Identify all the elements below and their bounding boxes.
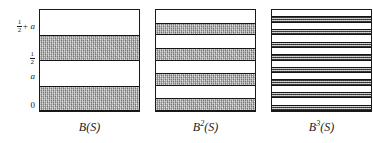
panel-b1-caption: B(S) [39, 118, 140, 138]
y-axis-labels: 1 2 + a 1 2 a 0 [0, 0, 38, 112]
band [156, 98, 255, 111]
panel-b2 [155, 9, 256, 112]
panel-b1-plot [40, 10, 139, 111]
panel-b3 [271, 9, 372, 112]
y-axis-tick-half-plus-a: 1 2 + a [17, 19, 35, 35]
band [272, 16, 371, 22]
band [272, 105, 371, 111]
caption-argument: (S) [86, 120, 100, 134]
band [272, 29, 371, 35]
band-fill [272, 55, 371, 59]
band-fill [272, 80, 371, 84]
band-fill [40, 36, 139, 59]
band-fill [156, 99, 255, 110]
caption-argument: (S) [204, 120, 218, 134]
band-fill [156, 24, 255, 35]
band-fill [156, 49, 255, 60]
fraction-denominator: 2 [17, 27, 23, 34]
band-fill [272, 106, 371, 110]
y-axis-tick-text: a [31, 71, 36, 81]
panel-b2-plot [156, 10, 255, 111]
panel-b3-caption: B3(S) [271, 118, 372, 138]
band [272, 92, 371, 98]
figure-container: 1 2 + a 1 2 a 0 B(S) B2(S) B3( [0, 0, 373, 143]
panel-b2-caption: B2(S) [155, 118, 256, 138]
band-fill [272, 43, 371, 47]
fraction-one-half: 1 2 [17, 19, 23, 35]
band-fill [272, 93, 371, 97]
band [272, 79, 371, 85]
band [272, 67, 371, 73]
band-fill [272, 68, 371, 72]
y-axis-tick-zero: 0 [31, 101, 36, 110]
band [156, 73, 255, 86]
band [40, 86, 139, 111]
band [156, 48, 255, 61]
fraction-one-half: 1 2 [30, 51, 36, 67]
band-fill [272, 17, 371, 21]
panel-b3-plot [272, 10, 371, 111]
band [272, 42, 371, 48]
band-fill [156, 74, 255, 85]
band [272, 54, 371, 60]
y-axis-tick-a: a [31, 72, 36, 81]
band-fill [272, 30, 371, 34]
y-axis-tick-half: 1 2 [30, 51, 36, 67]
y-axis-tick-text: 0 [31, 100, 36, 110]
caption-argument: (S) [320, 120, 334, 134]
panel-b1 [39, 9, 140, 112]
y-axis-tick-suffix: + a [22, 21, 35, 31]
band [40, 35, 139, 60]
band-fill [40, 87, 139, 110]
fraction-denominator: 2 [30, 59, 36, 66]
band [156, 23, 255, 36]
